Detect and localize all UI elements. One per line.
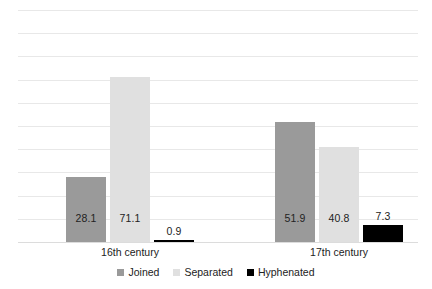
legend-swatch-icon [117, 269, 124, 276]
bar[interactable]: 71.1 [110, 77, 150, 242]
bar[interactable]: 51.9 [275, 122, 315, 242]
chart-legend: JoinedSeparatedHyphenated [0, 266, 432, 278]
bar-value-label: 51.9 [285, 212, 306, 224]
bar[interactable]: 28.1 [66, 177, 106, 242]
legend-label: Separated [184, 266, 232, 278]
category-label: 16th century [101, 246, 159, 258]
bar-value-label: 40.8 [329, 212, 350, 224]
bars-layer: 28.171.10.951.940.87.3 [18, 10, 418, 242]
bar[interactable]: 40.8 [319, 147, 359, 242]
legend-item[interactable]: Hyphenated [247, 266, 315, 278]
bar-value-label: 71.1 [120, 212, 141, 224]
gridline [18, 242, 418, 243]
legend-swatch-icon [173, 269, 180, 276]
bar-chart: 28.171.10.951.940.87.3 16th century17th … [0, 0, 432, 289]
legend-label: Joined [128, 266, 159, 278]
legend-label: Hyphenated [258, 266, 315, 278]
bar-value-label: 0.9 [167, 225, 182, 237]
bar-value-label: 28.1 [76, 212, 97, 224]
bar-value-label: 7.3 [376, 210, 391, 222]
bar[interactable]: 7.3 [363, 225, 403, 242]
plot-area: 28.171.10.951.940.87.3 [18, 10, 418, 242]
legend-swatch-icon [247, 269, 254, 276]
legend-item[interactable]: Joined [117, 266, 159, 278]
category-axis: 16th century17th century [18, 246, 418, 262]
bar[interactable]: 0.9 [154, 240, 194, 242]
category-label: 17th century [310, 246, 368, 258]
legend-item[interactable]: Separated [173, 266, 232, 278]
